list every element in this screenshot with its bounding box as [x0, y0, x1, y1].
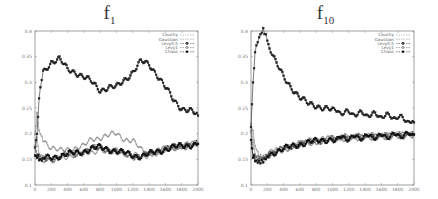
x-tick-label: 400: [279, 187, 288, 192]
x-tick-label: 1600: [376, 187, 388, 192]
x-tick-label: 200: [263, 187, 272, 192]
y-tick-label: 0.3: [25, 80, 32, 85]
y-tick-label: 0.4: [241, 29, 248, 34]
legend-label: Chaos: [381, 49, 394, 54]
x-tick-label: 1400: [143, 187, 155, 192]
chart-panel-f1: f1 0.10.150.20.250.30.350.40200400600800…: [0, 0, 219, 199]
x-tick-label: 1800: [176, 187, 188, 192]
x-tick-label: 2000: [192, 187, 204, 192]
legend-label: Chaos: [165, 49, 178, 54]
y-tick-label: 0.2: [25, 131, 32, 136]
x-tick-label: 600: [296, 187, 305, 192]
x-tick-label: 1800: [392, 187, 404, 192]
x-tick-label: 1000: [111, 187, 123, 192]
x-tick-label: 2000: [408, 187, 420, 192]
x-tick-label: 1200: [127, 187, 139, 192]
y-tick-label: 0.35: [238, 54, 248, 59]
x-tick-label: 1400: [359, 187, 371, 192]
x-tick-label: 600: [80, 187, 89, 192]
chart-panel-f10: f10 0.10.150.20.250.30.350.4020040060080…: [216, 0, 435, 199]
x-tick-label: 0: [34, 187, 37, 192]
x-tick-label: 1200: [343, 187, 355, 192]
x-tick-label: 1600: [160, 187, 172, 192]
line-chart: 0.10.150.20.250.30.350.40200400600800100…: [0, 0, 219, 199]
x-tick-label: 1000: [327, 187, 339, 192]
y-tick-label: 0.2: [241, 131, 248, 136]
y-tick-label: 0.25: [22, 106, 32, 111]
x-tick-label: 800: [96, 187, 105, 192]
x-tick-label: 0: [250, 187, 253, 192]
y-tick-label: 0.1: [25, 183, 32, 188]
x-tick-label: 800: [312, 187, 321, 192]
x-tick-label: 200: [47, 187, 56, 192]
y-tick-label: 0.1: [241, 183, 248, 188]
y-tick-label: 0.3: [241, 80, 248, 85]
x-tick-label: 400: [63, 187, 72, 192]
y-tick-label: 0.15: [22, 157, 32, 162]
y-tick-label: 0.4: [25, 29, 32, 34]
y-tick-label: 0.35: [22, 54, 32, 59]
y-tick-label: 0.15: [238, 157, 248, 162]
y-tick-label: 0.25: [238, 106, 248, 111]
line-chart: 0.10.150.20.250.30.350.40200400600800100…: [216, 0, 435, 199]
